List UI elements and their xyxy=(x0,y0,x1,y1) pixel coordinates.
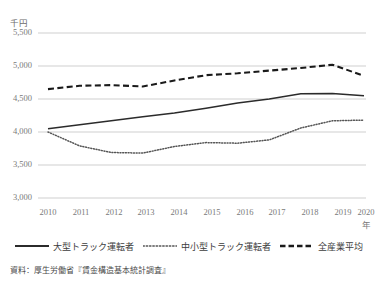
x-axis-tick-2020: 2020 xyxy=(351,207,378,217)
legend-label-large-truck-driver: 大型トラック運転者 xyxy=(53,240,134,253)
x-axis-tick-2014: 2014 xyxy=(164,207,194,217)
x-axis-tick-2016: 2016 xyxy=(230,207,260,217)
series-lines xyxy=(48,65,364,153)
gridlines xyxy=(38,33,366,198)
legend-item-all-industry-average: 全産業平均 xyxy=(280,240,363,253)
x-axis-tick-2015: 2015 xyxy=(197,207,227,217)
legend-swatch-solid xyxy=(15,242,49,250)
legend-swatch-dotted xyxy=(143,242,177,250)
x-axis-unit-label: 年 xyxy=(362,218,371,230)
x-axis-tick-2012: 2012 xyxy=(99,207,129,217)
legend-label-small-medium-truck-driver: 中小型トラック運転者 xyxy=(181,240,271,253)
x-axis-tick-2011: 2011 xyxy=(66,207,96,217)
source-note: 資料：厚生労働省『賃金構造基本統計調査』 xyxy=(10,264,170,275)
legend-swatch-dashed xyxy=(280,242,314,250)
x-axis-tick-2013: 2013 xyxy=(131,207,161,217)
x-axis-tick-2018: 2018 xyxy=(295,207,325,217)
x-axis-tick-2017: 2017 xyxy=(262,207,292,217)
chart-legend: 大型トラック運転者 中小型トラック運転者 全産業平均 xyxy=(0,238,378,254)
legend-label-all-industry-average: 全産業平均 xyxy=(318,240,363,253)
x-axis-tick-2010: 2010 xyxy=(33,207,63,217)
legend-item-large-truck-driver: 大型トラック運転者 xyxy=(15,240,134,253)
chart-container: 千円 5,500 5,000 4,500 4,000 3,500 3,000 2… xyxy=(0,0,378,283)
legend-item-small-medium-truck-driver: 中小型トラック運転者 xyxy=(143,240,271,253)
series-line-all-industry-average xyxy=(48,65,364,89)
series-line-small-medium-truck-driver xyxy=(48,120,364,153)
